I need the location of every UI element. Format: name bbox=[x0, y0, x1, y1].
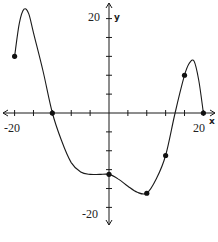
data-point bbox=[163, 153, 168, 158]
x-min-tick-label: -20 bbox=[4, 122, 20, 134]
data-point bbox=[144, 191, 149, 196]
y-axis-label: y bbox=[114, 13, 120, 22]
data-point bbox=[12, 54, 17, 59]
data-point bbox=[50, 110, 55, 115]
y-min-tick-label: -20 bbox=[82, 208, 98, 220]
x-max-tick-label: 20 bbox=[193, 122, 205, 134]
data-point bbox=[106, 172, 111, 177]
y-max-tick-label: 20 bbox=[88, 11, 100, 23]
data-point bbox=[201, 110, 206, 115]
x-axis-label: x bbox=[209, 117, 215, 126]
y-axis bbox=[106, 3, 112, 225]
data-point bbox=[182, 73, 187, 78]
function-graph bbox=[0, 0, 218, 242]
